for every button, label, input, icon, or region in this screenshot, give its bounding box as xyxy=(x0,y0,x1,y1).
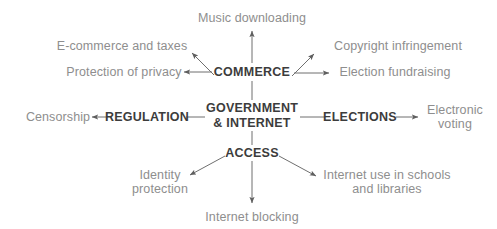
leaf-censorship: Censorship xyxy=(26,110,90,124)
center-line-2: & INTERNET xyxy=(206,115,298,130)
leaf-internet-blocking: Internet blocking xyxy=(205,210,298,224)
hub-access-label: ACCESS xyxy=(225,146,279,160)
leaf-music-downloading: Music downloading xyxy=(198,11,306,25)
hub-regulation-label: REGULATION xyxy=(105,110,189,124)
leaf-identity-protection: Identity protection xyxy=(132,168,188,196)
center-node-government-internet: GOVERNMENT & INTERNET xyxy=(206,101,298,130)
center-line-1: GOVERNMENT xyxy=(206,101,298,116)
leaf-identity-protection-line-1: Identity xyxy=(132,168,188,182)
connector-access-to-identity xyxy=(190,156,225,175)
leaf-electronic-voting-line-1: Electronic xyxy=(427,103,483,117)
leaf-ecommerce-and-taxes-line-1: E-commerce and taxes xyxy=(57,39,188,53)
leaf-music-downloading-line-1: Music downloading xyxy=(198,11,306,25)
hub-access: ACCESS xyxy=(225,146,279,160)
leaf-copyright-infringement: Copyright infringement xyxy=(334,39,462,53)
leaf-internet-use-line-2: and libraries xyxy=(323,182,450,196)
hub-regulation: REGULATION xyxy=(105,110,189,124)
leaf-electronic-voting: Electronic voting xyxy=(427,103,483,131)
leaf-protection-of-privacy: Protection of privacy xyxy=(66,65,181,79)
leaf-internet-blocking-line-1: Internet blocking xyxy=(205,210,298,224)
leaf-censorship-line-1: Censorship xyxy=(26,110,90,124)
connector-access-to-schools xyxy=(279,156,316,176)
concept-diagram: GOVERNMENT & INTERNET COMMERCE REGULATIO… xyxy=(0,0,497,229)
leaf-internet-use-line-1: Internet use in schools xyxy=(323,168,450,182)
leaf-electronic-voting-line-2: voting xyxy=(427,117,483,131)
hub-elections: ELECTIONS xyxy=(323,110,397,124)
hub-commerce-label: COMMERCE xyxy=(214,65,290,79)
hub-commerce: COMMERCE xyxy=(214,65,290,79)
leaf-copyright-infringement-line-1: Copyright infringement xyxy=(334,39,462,53)
leaf-election-fundraising-line-1: Election fundraising xyxy=(339,65,450,79)
leaf-protection-of-privacy-line-1: Protection of privacy xyxy=(66,65,181,79)
hub-elections-label: ELECTIONS xyxy=(323,110,397,124)
leaf-internet-use-in-schools-and-libraries: Internet use in schools and libraries xyxy=(323,168,450,196)
leaf-election-fundraising: Election fundraising xyxy=(339,65,450,79)
leaf-identity-protection-line-2: protection xyxy=(132,182,188,196)
leaf-ecommerce-and-taxes: E-commerce and taxes xyxy=(57,39,188,53)
